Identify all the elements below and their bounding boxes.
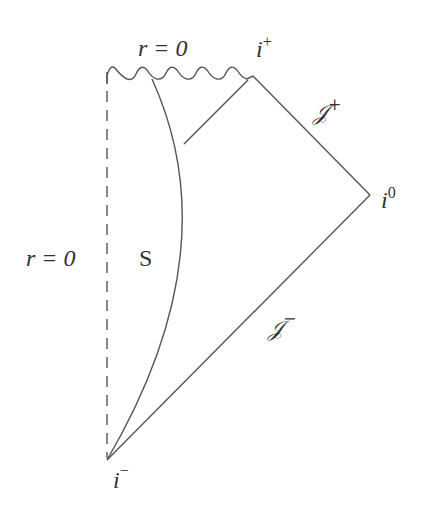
label-i-zero: i0 <box>381 184 396 213</box>
event-horizon-line <box>184 80 248 144</box>
label-i-minus: i− <box>113 462 129 493</box>
label-r0-left: r = 0 <box>26 245 76 271</box>
label-i-plus: i+ <box>256 33 272 62</box>
label-star-region: S <box>139 245 152 271</box>
scri-plus-line <box>253 76 370 195</box>
label-r0-top: r = 0 <box>138 35 188 61</box>
singularity-wavy-line <box>107 67 253 84</box>
scri-minus-line <box>107 195 370 460</box>
penrose-diagram: r = 0 i+ 𝒥+ i0 r = 0 S 𝒥− i− <box>0 0 423 522</box>
label-scri-plus: 𝒥+ <box>312 95 341 125</box>
label-scri-minus: 𝒥− <box>267 309 296 341</box>
